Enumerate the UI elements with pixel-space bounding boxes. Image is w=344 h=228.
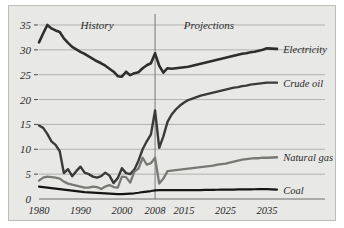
x-tick-label: 2008 [145,205,167,216]
energy-price-line-chart: 05101520253035 1980199020002008201520252… [9,6,335,220]
series-line-crude-oil [39,83,277,183]
y-tick-label: 10 [20,143,32,155]
series-label-electricity: Electricity [282,44,327,55]
series-label-coal: Coal [283,185,304,196]
x-tick-label: 2000 [111,205,133,216]
y-tick-label: 0 [26,193,32,205]
x-tick-label: 2035 [257,205,278,216]
x-tick-label: 1990 [70,205,92,216]
chart-figure: 05101520253035 1980199020002008201520252… [8,5,336,221]
y-tick-label: 35 [19,19,32,31]
gridlines-group [39,25,325,174]
annotation-history: History [80,19,114,31]
x-tick-label: 1980 [29,205,51,216]
series-label-natural-gas: Natural gas [282,152,333,163]
y-tick-label: 20 [20,94,32,106]
y-tickmarks-group [34,25,38,174]
annotation-projections: Projections [183,19,234,31]
x-tick-label: 2025 [215,205,236,216]
series-labels-group: ElectricityCrude oilNatural gasCoal [282,44,333,196]
series-line-coal [39,187,277,194]
y-tick-label: 25 [20,69,32,81]
y-tick-label: 15 [20,118,32,130]
series-lines-group [39,25,277,194]
series-label-crude-oil: Crude oil [283,78,323,89]
y-axis-tick-labels: 05101520253035 [19,19,32,205]
y-tick-label: 30 [19,44,32,56]
x-tick-label: 2015 [174,205,195,216]
series-line-electricity [39,25,277,77]
x-axis-tick-labels: 1980199020002008201520252035 [29,205,278,216]
y-tick-label: 5 [26,168,32,180]
